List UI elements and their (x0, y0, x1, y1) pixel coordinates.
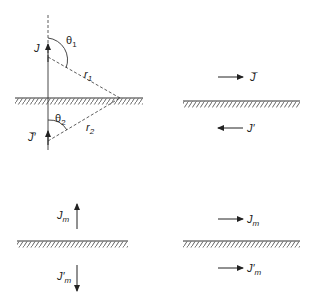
theta2-label: θ2 (55, 112, 66, 127)
source-label: J (33, 42, 40, 54)
image-theory-diagram: J θ1 r1 θ2 r2 J̅′ J̅ J′ Jm J′m Jm (0, 0, 311, 302)
panel-bottom-right: Jm J′m (183, 213, 300, 277)
source-label: J̅ (249, 71, 259, 83)
ground-plane (17, 241, 128, 248)
ground-plane (183, 241, 300, 248)
image-label: J′m (246, 262, 262, 277)
source-label: Jm (56, 209, 70, 224)
theta1-label: θ1 (66, 34, 77, 49)
image-label: J̅′ (27, 131, 37, 143)
source-label: Jm (246, 213, 260, 228)
panel-top-left: J θ1 r1 θ2 r2 J̅′ (15, 15, 143, 150)
ground-plane (15, 98, 143, 105)
image-label: J′ (246, 122, 256, 134)
image-label: J′m (56, 270, 72, 285)
ground-plane (183, 101, 300, 108)
panel-bottom-left: Jm J′m (17, 204, 128, 291)
r1-label: r1 (84, 68, 92, 83)
theta1-arc (48, 38, 68, 68)
panel-top-right: J̅ J′ (183, 71, 300, 134)
r2-label: r2 (86, 121, 95, 136)
